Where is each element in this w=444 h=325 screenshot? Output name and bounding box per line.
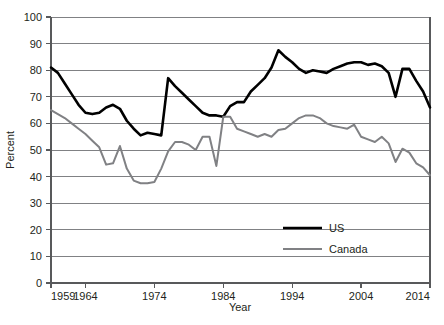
x-tick-label: 1959: [51, 290, 75, 302]
legend: USCanada: [283, 222, 368, 255]
y-axis-title: Percent: [4, 131, 16, 169]
series-line-us: [51, 50, 430, 135]
gridlines: [51, 17, 430, 283]
y-tick-label: 50: [30, 144, 42, 156]
series-line-canada: [51, 110, 430, 183]
legend-label-canada: Canada: [329, 243, 368, 255]
y-tick-label: 40: [30, 171, 42, 183]
x-axis: 1959196419741984199420042014: [51, 283, 430, 302]
line-chart: 0102030405060708090100 19591964197419841…: [0, 0, 444, 325]
x-tick-label: 2004: [349, 290, 373, 302]
legend-label-us: US: [329, 222, 344, 234]
y-axis: 0102030405060708090100: [24, 11, 51, 289]
chart-canvas: 0102030405060708090100 19591964197419841…: [0, 0, 444, 325]
y-tick-label: 80: [30, 64, 42, 76]
x-tick-label: 2014: [406, 290, 430, 302]
y-tick-label: 30: [30, 197, 42, 209]
y-tick-label: 20: [30, 224, 42, 236]
y-tick-label: 10: [30, 250, 42, 262]
y-tick-label: 100: [24, 11, 42, 23]
y-tick-label: 60: [30, 117, 42, 129]
y-tick-label: 70: [30, 91, 42, 103]
x-axis-title: Year: [229, 301, 252, 313]
y-tick-label: 0: [36, 277, 42, 289]
x-tick-label: 1974: [142, 290, 166, 302]
x-tick-label: 1964: [73, 290, 97, 302]
x-tick-label: 1994: [280, 290, 304, 302]
y-tick-label: 90: [30, 38, 42, 50]
